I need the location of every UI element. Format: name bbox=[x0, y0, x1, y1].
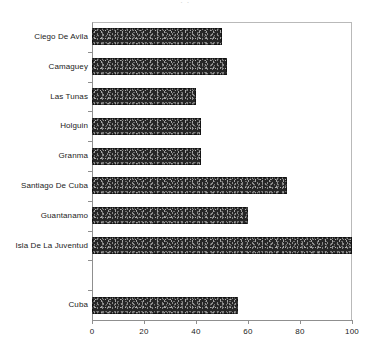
bar bbox=[92, 148, 201, 165]
bar bbox=[92, 177, 287, 194]
y-axis-tick bbox=[88, 231, 92, 232]
y-axis-tick bbox=[88, 111, 92, 112]
x-axis-tick-label: 60 bbox=[233, 327, 263, 336]
bar-row bbox=[0, 141, 370, 174]
y-axis-tick bbox=[88, 82, 92, 83]
y-axis-tick bbox=[88, 52, 92, 53]
y-axis-tick bbox=[88, 290, 92, 291]
y-axis-tick-label: Granma bbox=[59, 151, 89, 160]
x-axis-tick-label: 0 bbox=[77, 327, 107, 336]
y-axis-tick-label: Holguin bbox=[60, 121, 88, 130]
bar-chart: · · Ciego De AvilaCamagueyLas TunasHolgu… bbox=[0, 0, 370, 353]
x-axis-tick-label: 40 bbox=[181, 327, 211, 336]
bar bbox=[92, 88, 196, 105]
y-axis-tick-label: Las Tunas bbox=[50, 92, 88, 101]
x-axis-tick bbox=[196, 320, 197, 324]
y-axis-tick-label: Guantanamo bbox=[41, 211, 88, 220]
x-axis-tick-label: 80 bbox=[285, 327, 315, 336]
y-axis-tick bbox=[88, 260, 92, 261]
x-axis-tick bbox=[352, 320, 353, 324]
y-axis-tick bbox=[88, 141, 92, 142]
bar bbox=[92, 237, 352, 254]
y-axis-tick bbox=[88, 171, 92, 172]
x-axis-tick bbox=[144, 320, 145, 324]
x-axis-tick bbox=[300, 320, 301, 324]
y-axis-tick bbox=[88, 201, 92, 202]
x-axis-tick bbox=[248, 320, 249, 324]
y-axis-tick-label: Camaguey bbox=[49, 62, 89, 71]
bar bbox=[92, 58, 227, 75]
bar bbox=[92, 207, 248, 224]
x-axis-tick-label: 20 bbox=[129, 327, 159, 336]
bar-row bbox=[0, 111, 370, 144]
y-axis-tick-label: Santiago De Cuba bbox=[21, 181, 88, 190]
y-axis-tick-label: Ciego De Avila bbox=[34, 32, 88, 41]
y-axis-tick-label: Isla De La Juventud bbox=[15, 241, 88, 250]
bar bbox=[92, 118, 201, 135]
x-axis-tick bbox=[92, 320, 93, 324]
y-axis-tick-label: Cuba bbox=[68, 300, 88, 309]
x-axis-tick-label: 100 bbox=[337, 327, 367, 336]
chart-title-remnant: · · bbox=[0, 0, 370, 7]
bar bbox=[92, 28, 222, 45]
bar bbox=[92, 297, 238, 314]
bar-row bbox=[0, 290, 370, 323]
